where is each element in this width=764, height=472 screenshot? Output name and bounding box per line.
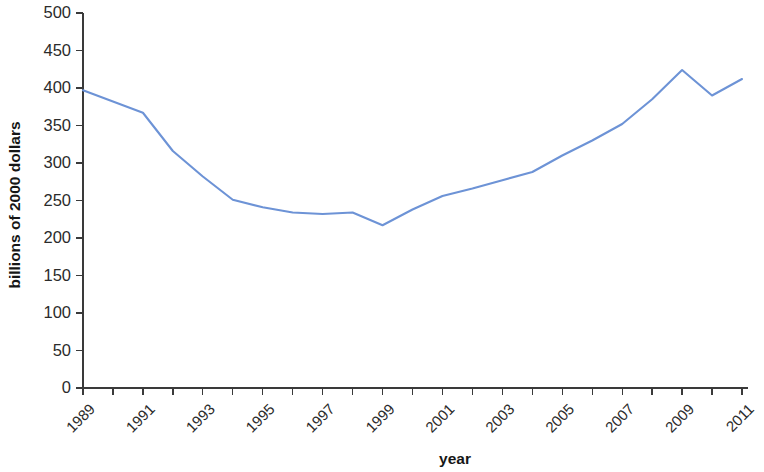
x-tick-label: 2009 [662,400,698,436]
y-tick-label: 500 [43,3,71,21]
y-tick-label: 200 [43,228,71,246]
y-tick-label: 300 [43,153,71,171]
x-tick-label: 1995 [242,400,278,436]
x-tick-label: 1989 [63,400,99,436]
x-tick-label: 1991 [122,400,158,436]
y-tick-label: 450 [43,41,71,59]
y-tick-label: 350 [43,116,71,134]
y-tick-label: 50 [53,341,71,359]
y-axis-title: billions of 2000 dollars [6,121,23,288]
y-tick-label: 150 [43,266,71,284]
y-tick-label: 400 [43,78,71,96]
data-series-line [83,70,742,225]
x-tick-label: 2011 [722,400,757,435]
x-tick-label: 2005 [542,400,578,436]
y-tick-label: 100 [43,303,71,321]
line-chart: 050100150200250300350400450500 198919911… [0,0,764,472]
y-tick-label: 0 [62,378,71,396]
x-tick-label: 2001 [422,400,458,436]
y-axis-ticks: 050100150200250300350400450500 [43,3,83,396]
chart-canvas: 050100150200250300350400450500 198919911… [0,0,764,472]
x-tick-label: 2007 [602,400,638,436]
x-tick-label: 2003 [482,400,518,436]
x-tick-label: 1993 [182,400,218,436]
x-tick-label: 1997 [302,400,338,436]
x-axis-title: year [439,450,471,467]
x-tick-label: 1999 [362,400,398,436]
x-axis-ticks: 1989199119931995199719992001200320052007… [63,388,758,436]
y-tick-label: 250 [43,191,71,209]
